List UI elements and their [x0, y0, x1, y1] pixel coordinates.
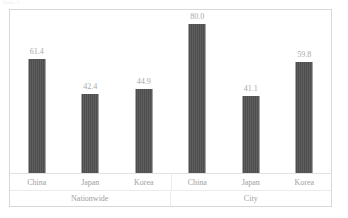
- bar: [189, 24, 206, 173]
- bar: [296, 62, 313, 173]
- bar: [82, 94, 99, 173]
- axis-category-label: Japan: [64, 174, 118, 190]
- bar-value-label: 41.1: [244, 84, 258, 93]
- axis-table: ChinaJapanKoreaChinaJapanKorea Nationwid…: [10, 173, 331, 206]
- axis-category-label: Korea: [278, 174, 332, 190]
- axis-category-label: China: [171, 174, 225, 190]
- bar-wrapper: 42.4: [64, 10, 118, 173]
- bar-wrapper: 80.0: [171, 10, 225, 173]
- bar-slot: 41.1: [224, 10, 278, 173]
- bar: [135, 89, 152, 173]
- bar-slot: 44.9: [117, 10, 171, 173]
- axis-category-label: Korea: [117, 174, 171, 190]
- bar-wrapper: 44.9: [117, 10, 171, 173]
- bar-value-label: 44.9: [137, 77, 151, 86]
- category-label-row: ChinaJapanKoreaChinaJapanKorea: [10, 174, 331, 191]
- bar-value-label: 59.8: [297, 50, 311, 59]
- group-label-row: NationwideCity: [10, 190, 331, 206]
- group-separator: [171, 174, 172, 190]
- bar-wrapper: 61.4: [10, 10, 64, 173]
- bar-value-label: 61.4: [30, 47, 44, 56]
- bar-wrapper: 41.1: [224, 10, 278, 173]
- figure-caption: Table 1: [3, 0, 20, 6]
- axis-group-label: City: [171, 190, 332, 206]
- bar-wrapper: 59.8: [278, 10, 332, 173]
- bar: [242, 96, 259, 173]
- chart-frame: 61.442.444.980.041.159.8 ChinaJapanKorea…: [9, 9, 332, 207]
- bar-slot: 61.4: [10, 10, 64, 173]
- axis-group-label: Nationwide: [10, 190, 171, 206]
- axis-category-label: China: [10, 174, 64, 190]
- axis-category-label: Japan: [224, 174, 278, 190]
- bar-slot: 80.0: [171, 10, 225, 173]
- bar-slot: 59.8: [278, 10, 332, 173]
- bar-slot: 42.4: [64, 10, 118, 173]
- bar: [28, 59, 45, 173]
- plot-area: 61.442.444.980.041.159.8: [10, 10, 331, 173]
- bar-value-label: 42.4: [83, 82, 97, 91]
- bar-value-label: 80.0: [190, 12, 204, 21]
- chart-figure: Table 1 61.442.444.980.041.159.8 ChinaJa…: [0, 0, 348, 218]
